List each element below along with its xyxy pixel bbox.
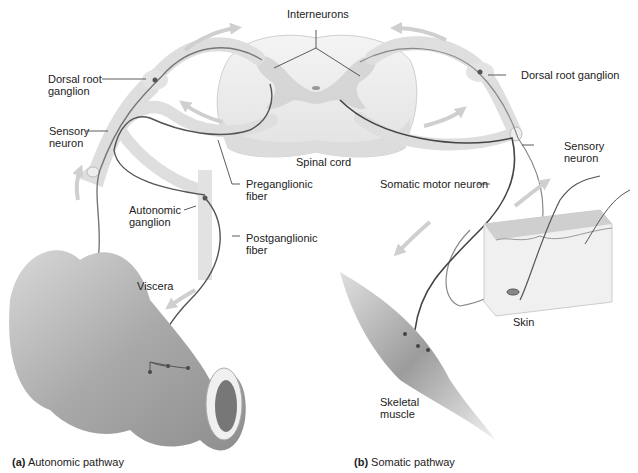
- label-line: Dorsal root: [48, 73, 102, 85]
- label-dorsal-root-ganglion-right: Dorsal root ganglion: [521, 69, 619, 81]
- label-line: Sensory: [564, 140, 604, 152]
- label-skeletal-muscle: Skeletal muscle: [380, 396, 419, 420]
- caption-somatic-pathway: (b) Somatic pathway: [354, 456, 455, 468]
- caption-text: Somatic pathway: [371, 456, 455, 468]
- caption-letter: (b): [354, 456, 368, 468]
- label-autonomic-ganglion: Autonomic ganglion: [129, 204, 181, 228]
- label-dorsal-root-ganglion-left: Dorsal root ganglion: [48, 73, 102, 97]
- label-line: neuron: [49, 137, 89, 149]
- label-line: neuron: [564, 152, 604, 164]
- label-line: Postganglionic: [246, 232, 318, 244]
- label-line: muscle: [380, 408, 419, 420]
- label-line: ganglion: [48, 85, 102, 97]
- label-line: Autonomic: [129, 204, 181, 216]
- label-line: fiber: [246, 244, 318, 256]
- label-spinal-cord: Spinal cord: [296, 156, 351, 168]
- label-skin: Skin: [513, 316, 534, 328]
- label-preganglionic-fiber: Preganglionic fiber: [246, 178, 313, 202]
- label-line: ganglion: [129, 216, 181, 228]
- label-sensory-neuron-right: Sensory neuron: [564, 140, 604, 164]
- skin: [484, 176, 630, 316]
- label-line: Skeletal: [380, 396, 419, 408]
- label-somatic-motor-neuron: Somatic motor neuron: [380, 178, 488, 190]
- label-interneurons: Interneurons: [287, 8, 349, 20]
- label-postganglionic-fiber: Postganglionic fiber: [246, 232, 318, 256]
- caption-text: Autonomic pathway: [28, 456, 124, 468]
- label-viscera: Viscera: [137, 280, 173, 292]
- caption-autonomic-pathway: (a) Autonomic pathway: [12, 456, 124, 468]
- label-sensory-neuron-left: Sensory neuron: [49, 125, 89, 149]
- caption-letter: (a): [12, 456, 25, 468]
- label-line: Sensory: [49, 125, 89, 137]
- label-line: fiber: [246, 190, 313, 202]
- viscera: [9, 250, 246, 450]
- label-line: Preganglionic: [246, 178, 313, 190]
